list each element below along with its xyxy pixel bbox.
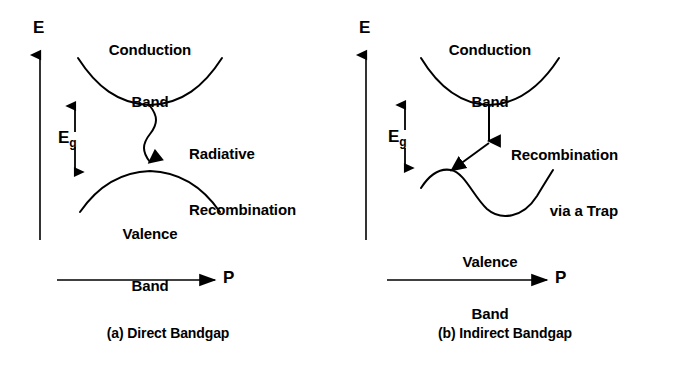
process-label-line2-a: Recombination	[189, 201, 296, 220]
momentum-axis-label-b: P	[555, 268, 566, 288]
bandgap-label-main-b: E	[388, 127, 399, 146]
process-label-line1-b: Recombination	[511, 146, 618, 165]
process-label-b: Recombination via a Trap	[511, 108, 618, 258]
bandgap-label-main-a: E	[58, 128, 69, 147]
conduction-band-label-line1-a: Conduction	[55, 41, 245, 58]
process-label-line2-b: via a Trap	[511, 202, 618, 221]
caption-b: (b) Indirect Bandgap	[337, 325, 673, 341]
panel-direct-bandgap: Conduction Band Valence Band E P Eg Radi…	[0, 0, 336, 365]
caption-a: (a) Direct Bandgap	[0, 325, 336, 341]
bandgap-label-sub-b: g	[399, 135, 406, 149]
process-label-a: Radiative Recombination	[189, 107, 296, 257]
panel-indirect-bandgap: Conduction Band Valence Band E P Eg Reco…	[337, 0, 673, 365]
trap-release-arrow-b	[452, 143, 489, 170]
conduction-band-label-line1-b: Conduction	[395, 41, 585, 58]
process-label-line1-a: Radiative	[189, 145, 296, 164]
figure-canvas: Conduction Band Valence Band E P Eg Radi…	[0, 0, 673, 365]
bandgap-label-sub-a: g	[69, 136, 76, 150]
valence-band-label-line2-a: Band	[55, 277, 245, 294]
energy-axis-label-b: E	[359, 18, 370, 38]
energy-axis-label-a: E	[33, 18, 44, 38]
momentum-axis-label-a: P	[223, 268, 234, 288]
bandgap-label-a: Eg	[58, 128, 76, 148]
bandgap-label-b: Eg	[388, 127, 406, 147]
valence-band-label-line2-b: Band	[395, 305, 585, 322]
